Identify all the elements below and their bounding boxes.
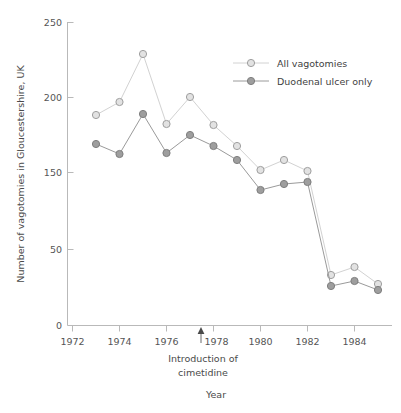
y-tick-label-0: 0: [56, 320, 62, 331]
data-point: [233, 142, 240, 149]
chart-svg: 250 200 150 50 0 1972 1974 1976 1978 198…: [0, 0, 401, 413]
y-axis-ticks: [68, 23, 74, 326]
legend-label-all-vagotomies: All vagotomies: [277, 58, 347, 69]
x-axis-title: Year: [205, 389, 226, 400]
data-point: [280, 156, 287, 163]
cimetidine-up-arrow-icon: [198, 327, 205, 343]
y-tick-label-150: 150: [44, 167, 62, 178]
x-tick-label-1974: 1974: [107, 336, 131, 347]
x-tick-label-1982: 1982: [295, 336, 319, 347]
x-tick-label-1976: 1976: [154, 336, 178, 347]
legend-marker-all-vagotomies: [247, 59, 254, 66]
y-tick-label-200: 200: [44, 92, 62, 103]
series-duodenal-ulcer-only: [92, 110, 381, 293]
cimetidine-annotation-line2: cimetidine: [178, 367, 228, 378]
data-point: [116, 150, 123, 157]
x-axis-ticks: [73, 326, 355, 332]
data-point: [327, 282, 334, 289]
data-point: [210, 142, 217, 149]
y-tick-label-250: 250: [44, 17, 62, 28]
data-point: [139, 50, 146, 57]
data-point: [280, 180, 287, 187]
data-point: [139, 110, 146, 117]
vagotomies-line-chart: 250 200 150 50 0 1972 1974 1976 1978 198…: [0, 0, 401, 413]
y-tick-label-50: 50: [50, 244, 62, 255]
data-point: [116, 98, 123, 105]
x-tick-label-1972: 1972: [60, 336, 84, 347]
data-point: [304, 167, 311, 174]
data-point: [210, 121, 217, 128]
data-point: [186, 131, 193, 138]
data-point: [374, 286, 381, 293]
data-point: [163, 149, 170, 156]
y-axis-title: Number of vagotomies in Gloucestershire,…: [15, 65, 26, 283]
series-line-all-vagotomies: [96, 54, 378, 284]
legend-label-duodenal-ulcer-only: Duodenal ulcer only: [277, 76, 373, 87]
legend-item-duodenal-ulcer-only[interactable]: Duodenal ulcer only: [233, 76, 373, 87]
data-point: [92, 111, 99, 118]
data-point: [92, 140, 99, 147]
data-point: [351, 263, 358, 270]
data-point: [257, 166, 264, 173]
legend-marker-duodenal-ulcer: [247, 77, 254, 84]
data-point: [163, 120, 170, 127]
cimetidine-annotation-line1: Introduction of: [168, 353, 238, 364]
data-point: [257, 186, 264, 193]
x-tick-label-1980: 1980: [248, 336, 272, 347]
x-tick-label-1978: 1978: [204, 336, 228, 347]
data-point: [304, 178, 311, 185]
series-line-duodenal-ulcer: [96, 114, 378, 290]
data-point: [186, 93, 193, 100]
x-tick-label-1984: 1984: [342, 336, 366, 347]
chart-legend: All vagotomies Duodenal ulcer only: [233, 58, 373, 87]
legend-item-all-vagotomies[interactable]: All vagotomies: [233, 58, 347, 69]
data-point: [351, 277, 358, 284]
data-point: [233, 156, 240, 163]
